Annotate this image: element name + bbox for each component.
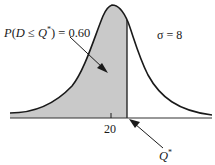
sigma-label: σ = 8 bbox=[157, 28, 182, 42]
q-star-arrow bbox=[135, 124, 163, 148]
normal-distribution-figure: P(D ≤ Q*) = 0.60 σ = 8 20 Q* bbox=[0, 0, 215, 165]
q-star-label: Q* bbox=[159, 148, 172, 163]
probability-label: P(D ≤ Q*) = 0.60 bbox=[3, 25, 90, 40]
mean-tick-label: 20 bbox=[104, 122, 116, 136]
shaded-area bbox=[10, 5, 127, 118]
